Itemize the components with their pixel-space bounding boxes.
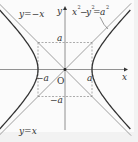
x-axis-arrow-icon bbox=[124, 68, 128, 72]
y-axis-label: y bbox=[56, 6, 63, 16]
asymptote-label-pos: y=x bbox=[18, 126, 37, 136]
tick-label-neg-y: −a bbox=[50, 95, 63, 105]
tick-label-pos-y: a bbox=[57, 33, 62, 43]
asymptote-label-neg: y=−x bbox=[18, 9, 44, 19]
equation-a: a bbox=[100, 7, 105, 17]
x-axis-label: x bbox=[122, 72, 127, 82]
hyperbola-diagram: y=−x y=x x y O a −a a −a x 2 − y 2 = a 2 bbox=[0, 0, 138, 142]
diagram-canvas: y=−x y=x x y O a −a a −a x 2 − y 2 = a 2 bbox=[0, 0, 138, 142]
equation-exp3: 2 bbox=[106, 4, 109, 10]
tick-label-neg-x: −a bbox=[36, 73, 49, 83]
equation-label: x 2 − y 2 = a 2 bbox=[72, 4, 109, 17]
origin-point bbox=[64, 68, 67, 71]
y-axis-arrow-icon bbox=[63, 6, 67, 10]
tick-label-pos-x: a bbox=[87, 73, 92, 83]
equation-x: x bbox=[72, 7, 77, 17]
origin-label: O bbox=[57, 76, 64, 86]
